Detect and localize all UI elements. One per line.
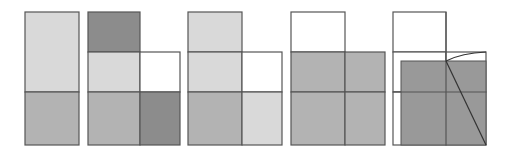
cell-light	[242, 92, 282, 145]
cell-light	[88, 52, 140, 92]
figure-2	[88, 12, 180, 145]
cell-medium	[291, 92, 345, 145]
cell-medium	[25, 92, 79, 145]
cell-medium	[345, 92, 385, 145]
figure-3	[188, 12, 282, 145]
cell-medium	[345, 52, 385, 92]
cell-white	[242, 52, 282, 92]
cell-dark	[140, 92, 180, 145]
shaded-region	[401, 61, 486, 145]
cell-light	[25, 12, 79, 92]
cell-dark	[88, 12, 140, 52]
figure-4	[291, 12, 385, 145]
cell-medium	[291, 52, 345, 92]
block-figures-diagram	[0, 0, 510, 153]
cell-medium	[88, 92, 140, 145]
figure-5	[393, 12, 486, 145]
cell-white	[291, 12, 345, 52]
diagram-stage	[0, 0, 510, 153]
cell-medium	[188, 92, 242, 145]
cell-white	[393, 12, 446, 52]
cell-white	[140, 52, 180, 92]
figure-1	[25, 12, 79, 145]
cell-light	[188, 12, 242, 52]
cell-light	[188, 52, 242, 92]
